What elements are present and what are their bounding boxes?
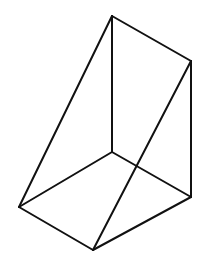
prism-diagram	[0, 0, 199, 255]
edge-EF	[19, 207, 93, 250]
edge-AB	[112, 16, 191, 61]
prism-wireframe	[0, 0, 199, 255]
